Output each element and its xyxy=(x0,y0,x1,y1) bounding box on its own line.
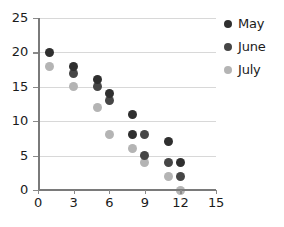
data-point xyxy=(164,158,173,167)
data-point xyxy=(176,158,185,167)
gridline-y-15 xyxy=(38,87,216,88)
data-point xyxy=(164,172,173,181)
gridline-y-10 xyxy=(38,121,216,122)
data-point xyxy=(164,137,173,146)
y-tick-20 xyxy=(33,52,38,53)
x-tick-label-0: 0 xyxy=(26,195,50,210)
legend-marker-icon xyxy=(224,66,232,74)
gridline-y-25 xyxy=(38,18,216,19)
data-point xyxy=(93,103,102,112)
x-tick-0 xyxy=(38,190,39,194)
y-tick-label-15: 15 xyxy=(0,79,28,94)
y-tick-label-10: 10 xyxy=(0,113,28,128)
y-tick-label-0: 0 xyxy=(0,182,28,197)
y-tick-5 xyxy=(33,156,38,157)
chart-legend: MayJuneJuly xyxy=(224,12,282,81)
y-axis-line xyxy=(38,18,40,190)
x-tick-label-12: 12 xyxy=(168,195,192,210)
legend-marker-icon xyxy=(224,20,232,28)
y-tick-10 xyxy=(33,121,38,122)
x-tick-15 xyxy=(216,190,217,194)
x-tick-12 xyxy=(180,190,181,194)
y-tick-25 xyxy=(33,18,38,19)
y-tick-label-5: 5 xyxy=(0,148,28,163)
data-point xyxy=(128,144,137,153)
x-axis-line xyxy=(38,189,216,191)
data-point xyxy=(45,62,54,71)
legend-label: July xyxy=(238,63,261,76)
scatter-chart: 03691215 0510152025 MayJuneJuly xyxy=(0,0,284,227)
y-tick-0 xyxy=(33,190,38,191)
legend-marker-icon xyxy=(224,43,232,51)
data-point xyxy=(69,82,78,91)
legend-item-july[interactable]: July xyxy=(224,58,282,81)
data-point xyxy=(105,130,114,139)
x-tick-label-6: 6 xyxy=(97,195,121,210)
x-tick-label-3: 3 xyxy=(62,195,86,210)
x-tick-label-15: 15 xyxy=(204,195,228,210)
gridline-y-5 xyxy=(38,156,216,157)
data-point xyxy=(176,172,185,181)
data-point xyxy=(128,130,137,139)
legend-label: May xyxy=(238,17,264,30)
legend-label: June xyxy=(238,40,266,53)
x-tick-3 xyxy=(74,190,75,194)
plot-area xyxy=(38,18,216,190)
data-point xyxy=(69,62,78,71)
data-point xyxy=(45,48,54,57)
y-tick-label-20: 20 xyxy=(0,44,28,59)
y-tick-15 xyxy=(33,87,38,88)
x-tick-label-9: 9 xyxy=(133,195,157,210)
data-point xyxy=(140,130,149,139)
y-tick-label-25: 25 xyxy=(0,10,28,25)
x-tick-9 xyxy=(145,190,146,194)
data-point xyxy=(105,89,114,98)
legend-item-may[interactable]: May xyxy=(224,12,282,35)
legend-item-june[interactable]: June xyxy=(224,35,282,58)
gridline-y-20 xyxy=(38,52,216,53)
data-point xyxy=(128,110,137,119)
x-tick-6 xyxy=(109,190,110,194)
